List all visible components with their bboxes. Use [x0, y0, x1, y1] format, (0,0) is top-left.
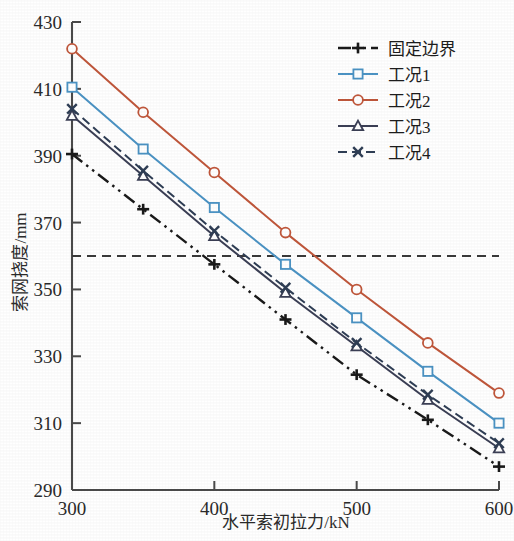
chart-canvas: 290310330350370390410430 300400500600 水平… [0, 0, 514, 541]
data-point-marker-circle [281, 228, 291, 238]
legend-label: 工况2 [388, 92, 431, 111]
chart-figure: 290310330350370390410430 300400500600 水平… [0, 0, 514, 541]
legend-label: 工况1 [388, 66, 431, 85]
y-tick-label: 370 [34, 213, 63, 234]
data-point-marker-circle [67, 44, 77, 54]
data-point-marker-square [353, 69, 362, 78]
data-point-marker-square [139, 144, 148, 153]
y-axis-title: 索网挠度/mm [11, 212, 30, 311]
data-point-marker-circle [423, 338, 433, 348]
data-point-marker-circle [494, 388, 504, 398]
y-tick-label: 430 [34, 12, 63, 33]
data-point-marker-circle [209, 168, 219, 178]
x-tick-label: 300 [58, 498, 87, 519]
data-point-marker-square [210, 203, 219, 212]
y-tick-label: 410 [34, 79, 63, 100]
y-tick-label: 350 [34, 279, 63, 300]
data-point-marker-square [423, 367, 432, 376]
legend-label: 工况3 [388, 118, 431, 137]
data-point-marker-square [67, 83, 76, 92]
data-point-marker-square [352, 313, 361, 322]
legend-label: 固定边界 [388, 40, 456, 59]
x-tick-label: 600 [485, 498, 514, 519]
data-point-marker-circle [138, 107, 148, 117]
data-point-marker-circle [353, 95, 363, 105]
data-point-marker-square [494, 419, 503, 428]
x-axis-title: 水平索初拉力/kN [222, 513, 350, 532]
y-tick-label: 330 [34, 346, 63, 367]
legend-label: 工况4 [388, 144, 431, 163]
data-point-marker-circle [352, 285, 362, 295]
y-tick-label: 310 [34, 413, 63, 434]
data-point-marker-square [281, 260, 290, 269]
y-tick-label: 390 [34, 146, 63, 167]
